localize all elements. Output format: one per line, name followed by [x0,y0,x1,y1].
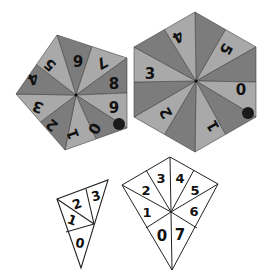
kite-label: 2 [141,183,150,198]
center-point [194,79,197,82]
center-point [74,93,77,96]
sector-label: 9 [109,99,119,117]
marker-dot [242,107,254,119]
kite-label: 1 [142,205,151,220]
small-triangle-outline [57,180,108,268]
pentagon: 6789012345 [16,35,127,150]
small-triangle-label: 1 [65,211,79,228]
small-triangle-label: 2 [70,195,84,212]
sector-label: 0 [236,81,246,99]
kite-label: 7 [175,226,185,244]
polygon-diagram: 6789012345 501234 2 3 1 0 2 3 4 5 1 6 0 … [0,0,268,280]
sector-label: 6 [73,51,83,69]
kite-divider [171,212,172,270]
kite-label: 0 [157,227,167,245]
kite-label: 5 [190,183,199,198]
hexagon: 501234 [134,12,256,152]
small-triangle-label: 0 [74,235,86,251]
kite-divider [170,157,171,212]
marker-dot [113,118,125,130]
kite-label: 3 [156,171,165,186]
sector-label: 3 [145,65,155,83]
kite-label: 6 [189,204,198,219]
small-triangle-net [57,180,108,268]
sector-label: 8 [109,75,119,93]
kite-label: 4 [175,171,184,186]
small-triangle-label: 3 [90,188,103,205]
kite-net [122,157,218,270]
